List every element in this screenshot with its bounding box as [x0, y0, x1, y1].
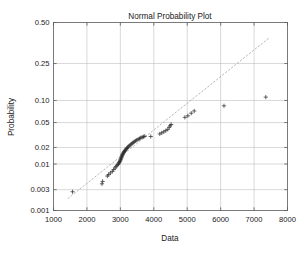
x-tick-label: 1000: [45, 215, 62, 224]
x-tick-label: 6000: [212, 215, 229, 224]
x-tick-label: 4000: [145, 215, 162, 224]
y-tick-label: 0.05: [35, 118, 50, 127]
y-tick-label: 0.01: [35, 160, 50, 169]
plot-canvas: Normal Probability Plot 1000200030004000…: [0, 0, 307, 255]
x-tick-label: 3000: [112, 215, 129, 224]
x-tick-label: 5000: [179, 215, 196, 224]
y-tick-label: 0.10: [35, 96, 50, 105]
x-tick-label: 2000: [78, 215, 95, 224]
y-tick-label: 0.001: [30, 206, 49, 215]
y-tick-label: 0.50: [35, 18, 50, 27]
chart-title: Normal Probability Plot: [128, 12, 212, 21]
y-tick-label: 0.25: [35, 59, 50, 68]
y-tick-label: 0.02: [35, 143, 50, 152]
y-axis-label: Probability: [7, 97, 16, 136]
figure-normal-probability-plot: Normal Probability Plot 1000200030004000…: [0, 0, 307, 255]
x-tick-label: 7000: [246, 215, 263, 224]
x-axis-label: Data: [161, 234, 179, 243]
x-tick-label: 8000: [279, 215, 296, 224]
y-tick-label: 0.003: [30, 185, 49, 194]
